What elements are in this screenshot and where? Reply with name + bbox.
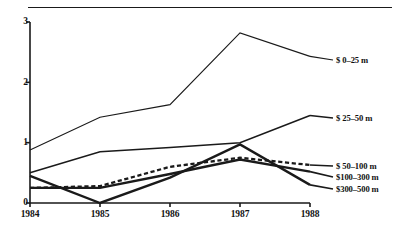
- legend-label-50-100m: $ 50–100 m: [336, 161, 377, 171]
- legend-label-25-50m: $ 25–50 m: [336, 113, 372, 123]
- legend-label-300-500m: $300–500 m: [336, 184, 379, 194]
- x-tick-label-1985: 1985: [80, 209, 120, 219]
- x-tick-label-1986: 1986: [150, 209, 190, 219]
- axis-lines: [30, 22, 310, 203]
- y-tick-label-2: 2: [12, 77, 28, 87]
- x-tick-label-1987: 1987: [220, 209, 260, 219]
- y-tick-label-1: 1: [12, 137, 28, 147]
- line-chart: 3 2 1 0 1984 1985 1986 1987 1988 $ 0–25 …: [0, 0, 400, 236]
- legend-label-100-300m: $100–300 m: [336, 172, 379, 182]
- legend-leader-2: [310, 165, 333, 166]
- y-tick-label-0: 0: [12, 197, 28, 207]
- x-tick-label-1988: 1988: [290, 209, 330, 219]
- legend-leader-1: [310, 116, 333, 118]
- series-line-3: [30, 160, 310, 188]
- legend-label-0-25m: $ 0–25 m: [336, 55, 368, 65]
- x-tick-label-1984: 1984: [10, 209, 50, 219]
- legend-leader-0: [310, 56, 333, 60]
- y-tick-label-3: 3: [12, 16, 28, 26]
- legend-leader-3: [310, 172, 333, 177]
- legend-leader-4: [310, 185, 333, 189]
